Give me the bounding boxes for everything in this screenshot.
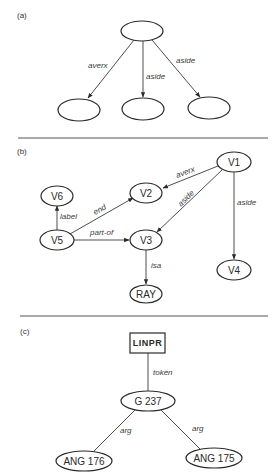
edge-top-right [152, 40, 200, 97]
panel-b-label: (b) [17, 147, 27, 156]
node-v2: V2 [130, 183, 162, 203]
svg-text:G 237: G 237 [134, 396, 162, 407]
svg-text:V6: V6 [51, 191, 64, 202]
node-v1: V1 [217, 152, 251, 172]
panel-b: (b) averx aside aside label end part-of … [17, 147, 257, 303]
svg-text:V5: V5 [51, 235, 64, 246]
edge-label-token: token [153, 368, 173, 377]
node-a-right [188, 97, 230, 119]
node-g237: G 237 [121, 391, 175, 411]
panel-c: (c) token arg arg LINPR G 237 ANG 176 AN… [20, 327, 242, 471]
edge-label-part-of: part-of [89, 228, 114, 237]
edge-label-aside-v4: aside [237, 198, 257, 207]
svg-text:V3: V3 [140, 235, 153, 246]
node-a-left [58, 99, 100, 121]
svg-text:RAY: RAY [136, 289, 156, 300]
node-linpr: LINPR [130, 333, 165, 353]
panel-a: (a) averx aside aside [17, 11, 230, 121]
node-ang175: ANG 175 [186, 448, 242, 468]
edge-label-aside-middle: aside [146, 72, 166, 81]
edge-label-arg-left: arg [120, 426, 132, 435]
svg-text:LINPR: LINPR [133, 338, 163, 348]
node-a-top [121, 21, 163, 41]
node-ang176: ANG 176 [56, 451, 112, 471]
edge-label-label: label [60, 212, 77, 221]
edge-label-averx: averx [88, 61, 109, 70]
edge-label-aside-v3: aside [176, 188, 196, 208]
node-ray: RAY [130, 285, 162, 303]
node-v4: V4 [217, 260, 251, 280]
edge-label-isa: isa [151, 261, 162, 270]
svg-text:V1: V1 [228, 157, 241, 168]
svg-text:ANG 176: ANG 176 [63, 456, 105, 467]
edge-label-end: end [92, 202, 108, 216]
panel-a-label: (a) [17, 11, 27, 20]
edge-label-arg-right: arg [192, 424, 204, 433]
svg-text:ANG 175: ANG 175 [193, 453, 235, 464]
semantic-network-figure: (a) averx aside aside (b) av [0, 0, 276, 474]
edge-label-averx: averx [175, 164, 197, 179]
node-v5: V5 [40, 230, 74, 250]
node-a-middle [122, 98, 164, 120]
node-v3: V3 [130, 230, 162, 250]
panel-c-label: (c) [20, 327, 30, 336]
edge-label-aside-right: aside [176, 56, 196, 65]
node-v6: V6 [41, 186, 73, 206]
svg-text:V2: V2 [140, 188, 153, 199]
svg-text:V4: V4 [228, 265, 241, 276]
